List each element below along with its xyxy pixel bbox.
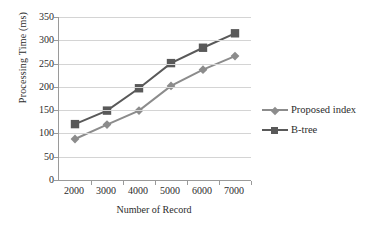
y-tick-mark [54, 17, 58, 18]
x-tick-mark [187, 181, 188, 185]
y-tick-label: 100 [39, 128, 54, 138]
line-chart: Processing Time (ms) 0501001502002503003… [0, 0, 375, 232]
plot-area [58, 17, 251, 181]
y-tick-mark [54, 40, 58, 41]
data-point-square [135, 84, 143, 92]
x-axis-tick-labels: 200030004000500060007000 [58, 186, 250, 200]
y-tick-mark [54, 87, 58, 88]
x-tick-label: 6000 [192, 186, 212, 196]
gridline [59, 87, 251, 88]
y-tick-label: 150 [39, 105, 54, 115]
gridline [59, 64, 251, 65]
x-tick-mark [123, 181, 124, 185]
y-tick-label: 200 [39, 82, 54, 92]
data-point-square [71, 120, 79, 128]
x-tick-label: 5000 [160, 186, 180, 196]
y-tick-mark [54, 64, 58, 65]
x-tick-label: 2000 [64, 186, 84, 196]
series-layer [59, 17, 251, 180]
data-point-square [199, 44, 207, 52]
gridline [59, 110, 251, 111]
legend-item-b-tree[interactable]: B-tree [262, 120, 374, 140]
chart-legend: Proposed indexB-tree [262, 100, 374, 140]
legend-item-proposed-index[interactable]: Proposed index [262, 100, 374, 120]
y-tick-label: 300 [39, 35, 54, 45]
series-line [75, 56, 235, 139]
y-tick-label: 250 [39, 59, 54, 69]
legend-marker-diamond [271, 106, 279, 114]
y-tick-label: 50 [44, 152, 54, 162]
x-tick-mark [155, 181, 156, 185]
y-tick-mark [54, 133, 58, 134]
x-tick-mark [91, 181, 92, 185]
x-tick-label: 4000 [128, 186, 148, 196]
data-point-diamond [199, 65, 208, 74]
legend-swatch [262, 104, 288, 116]
y-tick-label: 350 [39, 12, 54, 22]
data-point-diamond [103, 120, 112, 129]
gridline [59, 40, 251, 41]
x-tick-mark [219, 181, 220, 185]
gridline [59, 157, 251, 158]
y-axis-tick-labels: 050100150200250300350 [24, 11, 54, 185]
legend-marker-square [271, 127, 278, 134]
legend-swatch [262, 124, 288, 136]
gridline [59, 17, 251, 18]
gridline [59, 133, 251, 134]
x-axis-title: Number of Record [58, 204, 250, 215]
y-tick-mark [54, 157, 58, 158]
legend-label: B-tree [291, 124, 317, 136]
data-point-square [231, 29, 239, 37]
y-tick-mark [54, 110, 58, 111]
data-point-diamond [71, 135, 80, 144]
series-b-tree [71, 29, 239, 128]
y-tick-mark [54, 180, 58, 181]
legend-label: Proposed index [291, 104, 356, 116]
x-tick-mark [251, 181, 252, 185]
x-tick-label: 3000 [96, 186, 116, 196]
data-point-diamond [231, 52, 240, 61]
x-tick-label: 7000 [224, 186, 244, 196]
series-proposed-index [71, 52, 240, 144]
